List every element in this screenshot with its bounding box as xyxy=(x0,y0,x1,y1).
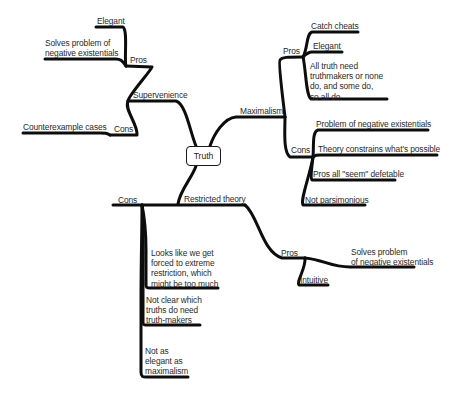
node-supervenience-pros[interactable]: Pros xyxy=(130,55,147,65)
node-supervenience-pro-elegant[interactable]: Elegant xyxy=(97,16,125,26)
node-maximalism-pro-all-truth[interactable]: All truth need truthmakers or none do, a… xyxy=(310,61,383,102)
node-maximalism-con-theory-constrains[interactable]: Theory constrains what's possible xyxy=(318,144,440,154)
node-maximalism-con-pros-defeatable[interactable]: Pros all "seem" defetable xyxy=(313,169,404,179)
node-restricted-pros[interactable]: Pros xyxy=(281,248,298,258)
root-label: Truth xyxy=(194,151,214,161)
node-restricted-cons[interactable]: Cons xyxy=(118,195,137,205)
node-restricted-con-not-as-elegant[interactable]: Not as elegant as maximalism xyxy=(145,346,188,377)
node-restricted-pro-intuitive[interactable]: Intuitive xyxy=(300,275,328,285)
node-maximalism-con-not-parsimonious[interactable]: Not parsimonious xyxy=(305,195,369,205)
node-maximalism[interactable]: Maximalism xyxy=(240,106,283,116)
node-supervenience-con-counterexample[interactable]: Counterexample cases xyxy=(23,122,107,132)
node-supervenience[interactable]: Supervenience xyxy=(133,90,188,100)
node-restricted-con-extreme-restriction[interactable]: Looks like we get forced to extreme rest… xyxy=(151,248,218,289)
node-maximalism-pro-catch-cheats[interactable]: Catch cheats xyxy=(311,21,359,31)
node-restricted-theory[interactable]: Restricted theory xyxy=(184,194,246,204)
node-maximalism-con-negative-existentials[interactable]: Problem of negative existentials xyxy=(316,119,431,129)
node-maximalism-pros[interactable]: Pros xyxy=(283,46,300,56)
node-restricted-pro-solves[interactable]: Solves problem of negative existentials xyxy=(351,247,433,267)
root-node-truth[interactable]: Truth xyxy=(186,146,221,166)
node-supervenience-cons[interactable]: Cons xyxy=(114,124,133,134)
mind-map-canvas: Truth Supervenience Pros Elegant Solves … xyxy=(0,0,460,394)
node-restricted-con-not-clear[interactable]: Not clear which truths do need truth-mak… xyxy=(146,295,202,326)
node-supervenience-pro-solves[interactable]: Solves problem of negative existentials xyxy=(45,38,118,58)
node-maximalism-cons[interactable]: Cons xyxy=(291,145,310,155)
node-maximalism-pro-elegant[interactable]: Elegant xyxy=(313,41,341,51)
